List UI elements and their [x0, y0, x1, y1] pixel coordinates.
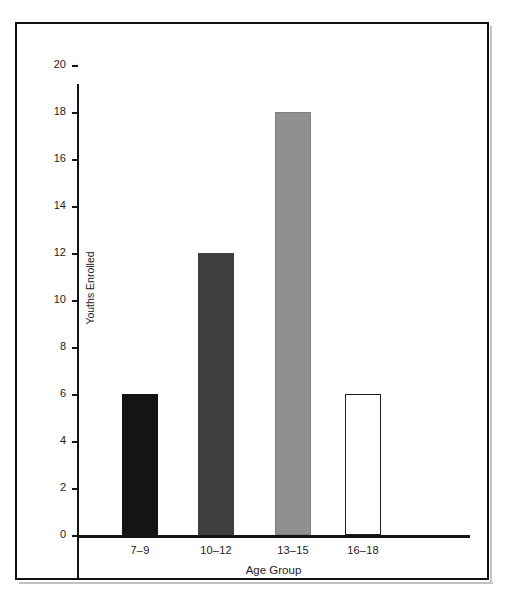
y-axis-title: Youths Enrolled [84, 208, 96, 368]
y-axis-tick [72, 206, 78, 208]
y-axis-tick-label: 16 [26, 153, 66, 164]
x-axis-title: Age Group [77, 564, 470, 576]
y-axis-tick-label: 14 [26, 200, 66, 211]
x-axis-tick-label: 10–12 [176, 545, 256, 556]
y-axis-tick-label: 0 [26, 529, 66, 540]
y-axis-tick-labels: 02468101214161820 [22, 0, 66, 601]
y-axis-tick [72, 159, 78, 161]
y-axis-tick [72, 441, 78, 443]
bar-4 [345, 394, 381, 535]
bar-2 [198, 253, 234, 535]
frame-shadow-right [490, 26, 492, 582]
y-axis-tick [72, 300, 78, 302]
y-axis-tick [72, 347, 78, 349]
figure-container: 02468101214161820 7–910–1213–1516–18 Age… [0, 0, 508, 601]
y-axis-tick-label: 6 [26, 388, 66, 399]
y-axis-tick [72, 535, 78, 537]
bar-1 [122, 394, 158, 535]
y-axis-tick [72, 488, 78, 490]
x-axis-tick-label: 16–18 [323, 545, 403, 556]
y-axis-tick [72, 112, 78, 114]
y-axis-tick-label: 20 [26, 59, 66, 70]
y-axis-tick [72, 253, 78, 255]
y-axis-tick-label: 10 [26, 294, 66, 305]
y-axis-tick [72, 65, 78, 67]
x-axis-line [77, 535, 470, 538]
frame-shadow [19, 582, 493, 584]
x-axis-tick-label: 7–9 [100, 545, 180, 556]
y-axis-tick-label: 4 [26, 435, 66, 446]
plot-area: 7–910–1213–1516–18 Age Group Youths Enro… [77, 42, 470, 535]
y-axis-tick-label: 18 [26, 106, 66, 117]
y-axis-tick-label: 2 [26, 482, 66, 493]
y-axis-line [77, 84, 79, 579]
y-axis-tick [72, 394, 78, 396]
bar-3 [275, 112, 311, 535]
y-axis-tick-label: 12 [26, 247, 66, 258]
y-axis-tick-label: 8 [26, 341, 66, 352]
x-axis-tick-label: 13–15 [253, 545, 333, 556]
